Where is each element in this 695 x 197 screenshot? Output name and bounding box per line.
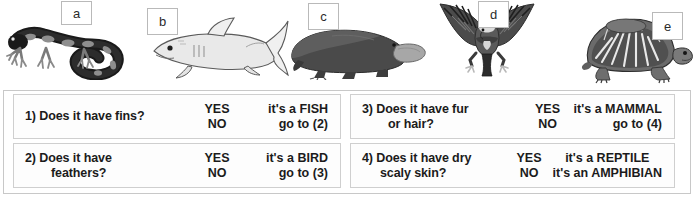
- key-cell-4: 4) Does it have dry scaly skin? YES NO i…: [350, 143, 675, 188]
- question-number-1: 1): [25, 109, 36, 123]
- key-cell-3: 3) Does it have fur or hair? YES NO it's…: [350, 94, 675, 139]
- animal-label-c-text: c: [320, 10, 327, 23]
- key-cell-1: 1) Does it have fins? YES NO it's a FISH…: [13, 94, 341, 139]
- answers-1: YES NO: [190, 102, 244, 132]
- result-no-4: it's an AMPHIBIAN: [553, 166, 662, 181]
- results-2: it's a BIRD go to (3): [244, 151, 340, 181]
- animal-label-b-text: b: [159, 15, 166, 28]
- results-3: it's a MAMMAL go to (4): [574, 102, 674, 132]
- question-line2-2: feathers?: [25, 166, 190, 181]
- result-no-2: go to (3): [244, 166, 328, 181]
- key-row-bottom: 2) Does it have feathers? YES NO it's a …: [4, 143, 690, 190]
- result-yes-2: it's a BIRD: [244, 151, 328, 166]
- question-text-1: 1) Does it have fins?: [14, 109, 190, 124]
- answers-3: YES NO: [521, 102, 573, 132]
- animal-label-e-text: e: [664, 20, 671, 33]
- animal-label-d: d: [478, 1, 509, 28]
- result-yes-4: it's a REPTILE: [553, 151, 662, 166]
- animal-label-a: a: [61, 1, 92, 25]
- animal-label-c: c: [308, 3, 339, 30]
- result-yes-3: it's a MAMMAL: [574, 102, 662, 117]
- answers-2: YES NO: [190, 151, 244, 181]
- question-text-3: 3) Does it have fur or hair?: [351, 102, 521, 132]
- question-text-2: 2) Does it have feathers?: [14, 151, 190, 181]
- animal-label-b: b: [147, 8, 178, 35]
- salamander-icon: [6, 18, 126, 80]
- question-line1-4: Does it have dry: [376, 151, 471, 165]
- question-number-4: 4): [362, 151, 373, 165]
- answer-no-1: NO: [190, 117, 244, 132]
- animal-label-e: e: [652, 12, 683, 40]
- result-yes-1: it's a FISH: [244, 102, 328, 117]
- animal-label-a-text: a: [73, 7, 80, 20]
- question-line2-3: or hair?: [362, 117, 521, 132]
- question-number-3: 3): [362, 102, 373, 116]
- dichotomous-key-table: 1) Does it have fins? YES NO it's a FISH…: [3, 90, 691, 194]
- animal-figure-a: [6, 18, 126, 80]
- animal-strip: a b: [0, 0, 695, 90]
- answer-no-3: NO: [521, 117, 573, 132]
- answer-yes-1: YES: [190, 102, 244, 117]
- answer-yes-2: YES: [190, 151, 244, 166]
- answer-no-2: NO: [190, 166, 244, 181]
- result-no-1: go to (2): [244, 117, 328, 132]
- results-1: it's a FISH go to (2): [244, 102, 340, 132]
- question-line1-1: Does it have fins?: [39, 109, 144, 123]
- result-no-3: go to (4): [574, 117, 662, 132]
- answer-yes-4: YES: [506, 151, 553, 166]
- results-4: it's a REPTILE it's an AMPHIBIAN: [553, 151, 674, 181]
- question-text-4: 4) Does it have dry scaly skin?: [351, 151, 506, 181]
- question-line2-4: scaly skin?: [362, 166, 506, 181]
- animal-label-d-text: d: [490, 8, 497, 21]
- answer-no-4: NO: [506, 166, 553, 181]
- key-cell-2: 2) Does it have feathers? YES NO it's a …: [13, 143, 341, 188]
- answers-4: YES NO: [506, 151, 553, 181]
- key-row-top: 1) Does it have fins? YES NO it's a FISH…: [4, 94, 690, 141]
- question-number-2: 2): [25, 151, 36, 165]
- question-line1-3: Does it have fur: [376, 102, 468, 116]
- question-line1-2: Does it have: [39, 151, 111, 165]
- answer-yes-3: YES: [521, 102, 573, 117]
